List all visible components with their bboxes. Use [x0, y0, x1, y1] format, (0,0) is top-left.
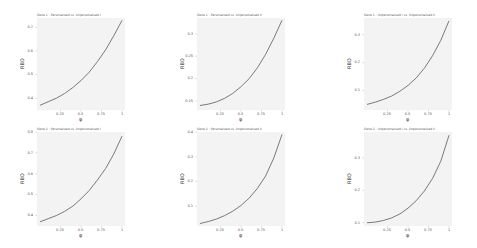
chart-panel-2: Gene 1 : Personalised vs. Unpersonalised…: [159, 0, 318, 124]
chart-panel-5: Gene 2 : Personalised vs. Unpersonalised…: [159, 124, 318, 248]
x-axis-label: φ: [239, 116, 242, 122]
y-tick-label: 0.2: [354, 188, 360, 192]
y-tick-label: 0.2: [354, 60, 360, 64]
y-tick-label: 0.25: [185, 54, 193, 58]
y-tick-label: 0.5: [27, 192, 33, 196]
x-axis-label: φ: [406, 232, 409, 238]
y-tick-label: 0.15: [185, 99, 193, 103]
y-tick-label: 0.6: [27, 49, 33, 53]
x-tick-label: 0.75: [257, 228, 265, 232]
panel-title: Gene 1 : Personalised vs. Unpersonalised…: [197, 13, 262, 17]
y-tick-label: 0.8: [27, 130, 33, 134]
plot-background: [37, 132, 125, 226]
y-tick-label: 0.3: [354, 33, 360, 37]
plot-background: [364, 18, 452, 110]
y-tick-label: 0.1: [354, 88, 360, 92]
x-axis-label: φ: [79, 116, 82, 122]
y-axis-label: RBO: [179, 58, 185, 69]
x-tick-label: 0.25: [56, 112, 64, 116]
plot-area: [318, 0, 477, 124]
y-tick-label: 0.3: [187, 32, 193, 36]
y-tick-label: 0.6: [27, 172, 33, 176]
plot-background: [364, 132, 452, 226]
x-tick-label: 0.75: [424, 112, 432, 116]
y-tick-label: 0.1: [354, 221, 360, 225]
y-tick-label: 0.4: [187, 130, 193, 134]
panel-title: Gene 1 : Personalised vs. Unpersonalised…: [37, 13, 101, 17]
y-tick-label: 0.5: [27, 72, 33, 76]
x-tick-label: 0.75: [97, 112, 105, 116]
plot-background: [197, 132, 285, 226]
x-tick-label: 0.75: [97, 228, 105, 232]
x-tick-label: 1: [281, 112, 283, 116]
x-tick-label: 1: [121, 228, 123, 232]
y-tick-label: 0.1: [187, 204, 193, 208]
y-tick-label: 0.4: [27, 213, 33, 217]
x-tick-label: 0.25: [216, 228, 224, 232]
panel-title: Gene 2 : Unpersonalised I vs. Unpersonal…: [364, 127, 435, 131]
y-tick-label: 0.7: [27, 151, 33, 155]
x-tick-label: 0.25: [383, 112, 391, 116]
x-axis-label: φ: [239, 232, 242, 238]
plot-background: [197, 18, 285, 110]
chart-panel-4: Gene 2 : Personalised vs. Unpersonalised…: [0, 124, 159, 248]
y-axis-label: RBO: [19, 58, 25, 69]
y-axis-label: RBO: [19, 173, 25, 184]
panel-title: Gene 2 : Personalised vs. Unpersonalised…: [197, 127, 262, 131]
plot-background: [37, 18, 125, 110]
panel-title: Gene 2 : Personalised vs. Unpersonalised…: [37, 127, 101, 131]
x-tick-label: 1: [448, 228, 450, 232]
y-tick-label: 0.3: [187, 155, 193, 159]
y-axis-label: RBO: [179, 173, 185, 184]
y-tick-label: 0.3: [354, 156, 360, 160]
x-tick-label: 0.25: [383, 228, 391, 232]
y-tick-label: 0.4: [27, 96, 33, 100]
x-tick-label: 0.25: [56, 228, 64, 232]
x-axis-label: φ: [406, 116, 409, 122]
y-tick-label: 0.2: [187, 179, 193, 183]
x-axis-label: φ: [79, 232, 82, 238]
y-tick-label: 0.7: [27, 25, 33, 29]
chart-panel-3: Gene 1 : Unpersonalised I vs. Unpersonal…: [318, 0, 477, 124]
x-tick-label: 1: [281, 228, 283, 232]
x-tick-label: 0.75: [424, 228, 432, 232]
panel-title: Gene 1 : Unpersonalised I vs. Unpersonal…: [364, 13, 435, 17]
chart-panel-6: Gene 2 : Unpersonalised I vs. Unpersonal…: [318, 124, 477, 248]
plot-area: [318, 124, 477, 248]
x-tick-label: 1: [448, 112, 450, 116]
y-axis-label: RBO: [346, 58, 352, 69]
y-tick-label: 0.2: [187, 76, 193, 80]
x-tick-label: 0.25: [216, 112, 224, 116]
x-tick-label: 0.75: [257, 112, 265, 116]
chart-panel-1: Gene 1 : Personalised vs. Unpersonalised…: [0, 0, 159, 124]
y-axis-label: RBO: [346, 173, 352, 184]
x-tick-label: 1: [121, 112, 123, 116]
